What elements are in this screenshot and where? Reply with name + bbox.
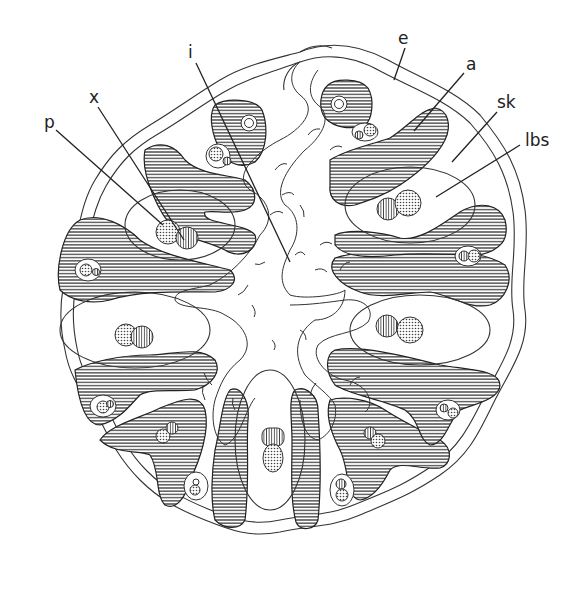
cell-stipple — [80, 264, 92, 276]
cell-stipple — [190, 485, 200, 495]
figure-canvas: e a sk lbs i x p — [0, 0, 579, 589]
cross-section-diagram: e a sk lbs i x p — [0, 0, 579, 589]
cell-lined — [93, 269, 100, 276]
mesentery-group — [58, 80, 509, 528]
cell-lined — [355, 131, 363, 139]
label-lbs: lbs — [525, 130, 550, 150]
cell-lined — [223, 157, 231, 165]
cell-lined — [336, 479, 346, 489]
cell-stipple — [395, 190, 421, 216]
label-x: x — [89, 87, 99, 107]
label-p: p — [44, 112, 55, 132]
cell-lined — [131, 326, 153, 348]
label-a: a — [466, 54, 476, 74]
label-i: i — [188, 42, 193, 62]
concentric-cell — [245, 119, 254, 128]
cell-stipple — [336, 489, 348, 501]
hatched-region — [212, 389, 248, 527]
concentric-cell — [335, 100, 344, 109]
hatched-region — [291, 389, 320, 529]
leader-lbs — [436, 145, 520, 197]
label-sk: sk — [497, 92, 516, 112]
leader-sk — [452, 112, 497, 162]
labels: e a sk lbs i x p — [44, 28, 550, 150]
hatched-region — [335, 205, 506, 256]
cell-lined — [440, 404, 448, 412]
cell-lined — [176, 227, 198, 249]
hatched-region — [332, 251, 509, 306]
cell-stipple — [263, 444, 283, 472]
label-e: e — [398, 28, 408, 48]
cell-lined — [376, 315, 398, 337]
cell-stipple — [209, 147, 223, 161]
cell-stipple — [448, 408, 458, 418]
cell-stipple — [397, 317, 423, 343]
cell-lined — [107, 401, 114, 408]
cell-stipple — [371, 434, 385, 448]
cell-outline — [193, 479, 199, 485]
cell-stipple — [364, 124, 376, 136]
top-fold-outline — [284, 46, 332, 90]
cell-stipple — [468, 250, 480, 262]
cell-lined — [262, 428, 284, 446]
cell-lined — [166, 422, 178, 434]
